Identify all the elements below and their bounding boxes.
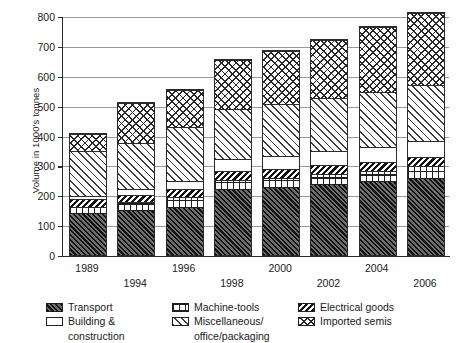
bar-segment-miscellaneous-office-packaging[interactable] [408,85,444,141]
bar-segment-imported-semis[interactable] [70,134,106,151]
miscellaneous-swatch-icon [172,317,189,326]
bar-segment-imported-semis[interactable] [167,90,203,127]
imported-semis-swatch-icon [298,317,315,326]
bar-segment-miscellaneous-office-packaging[interactable] [118,143,154,189]
legend-label-continued: construction [46,330,125,342]
bar-segment-imported-semis[interactable] [408,13,444,85]
legend-label: Machine-tools [194,301,259,313]
bar-segment-imported-semis[interactable] [118,103,154,143]
bar-segment-machine-tools[interactable] [408,166,444,179]
bar-2006[interactable] [407,12,445,256]
bar-segment-imported-semis[interactable] [263,51,299,104]
bar-segment-miscellaneous-office-packaging[interactable] [360,92,396,147]
legend-label: Imported semis [320,315,392,327]
legend-label: Electrical goods [320,301,394,313]
legend-label: Transport [68,301,113,313]
bar-segment-machine-tools[interactable] [311,174,347,186]
bar-segment-imported-semis[interactable] [215,60,251,109]
bar-1994[interactable] [117,102,155,256]
bar-segment-transport[interactable] [215,190,251,255]
bar-2000[interactable] [262,50,300,256]
bar-segment-electrical-goods[interactable] [360,162,396,171]
bar-2002[interactable] [310,39,348,256]
x-axis-line [62,256,450,257]
y-axis-tick-label: 0 [49,250,55,262]
y-axis-tick [58,47,63,48]
legend-column-1: Transport Building & construction [46,301,125,342]
legend-label: Miscellaneous/ [194,315,263,327]
bar-segment-miscellaneous-office-packaging[interactable] [263,104,299,156]
x-axis-label-2002: 2002 [317,277,340,289]
bar-segment-machine-tools[interactable] [70,207,106,214]
bar-segment-machine-tools[interactable] [118,202,154,211]
y-axis-tick-label: 200 [37,190,55,202]
legend-column-2: Machine-tools Miscellaneous/ office/pack… [172,301,270,342]
bar-segment-machine-tools[interactable] [263,178,299,188]
bar-segment-imported-semis[interactable] [311,40,347,98]
bar-segment-electrical-goods[interactable] [311,165,347,174]
bar-segment-imported-semis[interactable] [360,27,396,92]
bar-1996[interactable] [166,89,204,256]
y-axis-tick [58,77,63,78]
bar-segment-electrical-goods[interactable] [167,189,203,198]
plot-area: 0100200300400500600700800 [62,17,448,256]
y-axis-tick-label: 700 [37,41,55,53]
bar-segment-building-construction[interactable] [167,181,203,188]
legend-item-imported-semis: Imported semis [298,315,394,327]
chart-legend: Transport Building & construction Machin… [46,301,446,341]
bar-segment-electrical-goods[interactable] [215,171,251,180]
bar-segment-building-construction[interactable] [360,147,396,162]
bar-1998[interactable] [214,59,252,256]
bar-segment-electrical-goods[interactable] [408,157,444,166]
bar-2004[interactable] [359,26,397,256]
x-axis-label-1994: 1994 [124,277,147,289]
y-axis-tick-label: 800 [37,11,55,23]
bar-segment-miscellaneous-office-packaging[interactable] [215,109,251,159]
bar-segment-transport[interactable] [70,214,106,255]
bar-segment-electrical-goods[interactable] [263,169,299,178]
bar-segment-transport[interactable] [311,185,347,255]
y-axis-tick [58,107,63,108]
y-axis-tick-label: 100 [37,220,55,232]
bar-segment-building-construction[interactable] [263,156,299,169]
legend-label-continued: office/packaging [172,330,270,342]
transport-swatch-icon [46,303,63,312]
machine-tools-swatch-icon [172,303,189,312]
bar-segment-machine-tools[interactable] [215,180,251,190]
bar-1989[interactable] [69,133,107,256]
electrical-goods-swatch-icon [298,303,315,312]
x-axis-label-1998: 1998 [220,277,243,289]
bar-segment-electrical-goods[interactable] [118,195,154,202]
y-axis-tick-label: 600 [37,71,55,83]
x-axis-label-1989: 1989 [75,262,98,274]
bar-segment-building-construction[interactable] [311,151,347,164]
bar-segment-building-construction[interactable] [408,141,444,157]
bar-segment-transport[interactable] [118,211,154,255]
bar-segment-miscellaneous-office-packaging[interactable] [167,127,203,182]
gridline [63,17,449,18]
bar-segment-electrical-goods[interactable] [70,199,106,206]
y-axis-tick [58,256,63,257]
bar-segment-transport[interactable] [360,182,396,255]
bar-segment-machine-tools[interactable] [167,197,203,207]
y-axis-tick [58,137,63,138]
bar-segment-miscellaneous-office-packaging[interactable] [70,151,106,197]
y-axis-tick [58,17,63,18]
y-axis-tick [58,196,63,197]
y-axis-tick [58,166,63,167]
y-axis-tick-label: 300 [37,160,55,172]
y-axis-tick [58,226,63,227]
bar-segment-transport[interactable] [263,188,299,255]
bar-segment-building-construction[interactable] [215,159,251,171]
building-construction-swatch-icon [46,317,63,326]
x-axis-label-2006: 2006 [413,277,436,289]
bar-segment-machine-tools[interactable] [360,171,396,183]
legend-column-3: Electrical goods Imported semis [298,301,394,330]
x-axis-label-2004: 2004 [365,262,388,274]
bar-segment-transport[interactable] [167,208,203,255]
legend-item-building-construction: Building & [46,315,125,327]
legend-item-miscellaneous: Miscellaneous/ [172,315,270,327]
bar-segment-transport[interactable] [408,179,444,255]
bar-segment-miscellaneous-office-packaging[interactable] [311,98,347,151]
x-axis-label-1996: 1996 [172,262,195,274]
